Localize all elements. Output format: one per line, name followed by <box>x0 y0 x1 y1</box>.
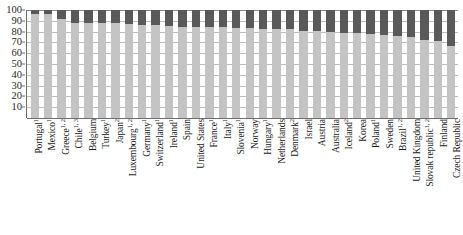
bar-column <box>189 10 202 118</box>
bar-segment-lower <box>151 25 159 118</box>
x-label-cell: Sweden <box>378 119 392 235</box>
x-label-cell: Brazil1, 2 <box>392 119 406 235</box>
bar-segment-lower <box>232 28 240 118</box>
y-tick-mark <box>22 85 25 86</box>
bar-segment-lower <box>380 35 388 118</box>
bar-stack <box>246 10 254 118</box>
bar-segment-upper <box>151 10 159 25</box>
y-tick-mark <box>22 31 25 32</box>
x-label-footnote: 1 <box>221 119 228 122</box>
x-label-cell: United States <box>189 119 203 235</box>
bar-column <box>351 10 364 118</box>
bar-segment-upper <box>326 10 334 32</box>
bar-segment-upper <box>353 10 361 33</box>
bar-segment-upper <box>340 10 348 33</box>
bar-segment-lower <box>313 31 321 118</box>
bar-column <box>404 10 417 118</box>
x-label-cell: Chile1, 3 <box>68 119 82 235</box>
bar-stack <box>299 10 307 118</box>
bar-segment-upper <box>138 10 146 25</box>
bar-segment-lower <box>31 14 39 118</box>
x-label-footnote: 1 <box>261 119 268 122</box>
x-label-cell: Portugal1 <box>27 119 41 235</box>
bar-column <box>337 10 350 118</box>
bar-segment-lower <box>407 37 415 118</box>
bar-segment-upper <box>125 10 133 24</box>
bar-stack <box>366 10 374 118</box>
x-label-cell: Netherlands <box>270 119 284 235</box>
bar-column <box>391 10 404 118</box>
bar-column <box>176 10 189 118</box>
x-label-cell: Iceland2 <box>338 119 352 235</box>
y-tick-mark <box>22 107 25 108</box>
x-label-cell: Mexico1 <box>41 119 55 235</box>
bar-stack <box>286 10 294 118</box>
bar-stack <box>84 10 92 118</box>
y-tick-mark <box>22 53 25 54</box>
bar-segment-lower <box>420 40 428 118</box>
bar-segment-lower <box>111 23 119 118</box>
bar-column <box>41 10 54 118</box>
bar-column <box>162 10 175 118</box>
bar-column <box>28 10 41 118</box>
x-label-footnote: 1, 2 <box>59 119 66 128</box>
bar-segment-upper <box>165 10 173 26</box>
x-label-cell: Norway <box>243 119 257 235</box>
x-label-cell: Slovenia1 <box>230 119 244 235</box>
bar-segment-upper <box>192 10 200 27</box>
bar-segment-upper <box>407 10 415 37</box>
y-tick-mark <box>22 96 25 97</box>
x-label-cell: France1 <box>203 119 217 235</box>
y-tick-mark <box>22 20 25 21</box>
bar-column <box>431 10 444 118</box>
x-label-footnote: 1 <box>99 119 106 122</box>
bar-segment-lower <box>57 19 65 118</box>
x-label-footnote: 2 <box>113 119 120 122</box>
x-label-cell: Greece1, 2 <box>54 119 68 235</box>
bar-stack <box>138 10 146 118</box>
x-label-cell: Hungary1 <box>257 119 271 235</box>
bar-segment-upper <box>98 10 106 23</box>
bar-column <box>149 10 162 118</box>
bar-stack <box>219 10 227 118</box>
bar-column <box>377 10 390 118</box>
x-label-footnote: 1, 2 <box>126 119 133 128</box>
bar-column <box>216 10 229 118</box>
bar-stack <box>125 10 133 118</box>
bar-segment-lower <box>71 23 79 118</box>
x-label-cell: Ireland1 <box>162 119 176 235</box>
bar-segment-lower <box>259 29 267 118</box>
bar-segment-lower <box>286 29 294 118</box>
bar-segment-lower <box>353 33 361 118</box>
bar-column <box>297 10 310 118</box>
bar-segment-upper <box>286 10 294 29</box>
bar-segment-lower <box>192 27 200 118</box>
bar-segment-lower <box>246 28 254 118</box>
x-label-cell: Slovak republic1, 2 <box>419 119 433 235</box>
x-label-footnote: 1, 2 <box>396 119 403 128</box>
bar-stack <box>232 10 240 118</box>
bar-segment-upper <box>299 10 307 31</box>
bar-segment-lower <box>299 31 307 118</box>
bar-column <box>95 10 108 118</box>
x-label-footnote: 2 <box>288 119 295 122</box>
bar-stack <box>272 10 280 118</box>
x-label-cell: Austria <box>311 119 325 235</box>
bar-segment-upper <box>71 10 79 23</box>
plot-area-wrapper: 100908070605040302010 <box>26 10 458 118</box>
bar-column <box>283 10 296 118</box>
y-tick-mark <box>22 64 25 65</box>
x-label-cell: Denmark2 <box>284 119 298 235</box>
bar-column <box>55 10 68 118</box>
x-label-cell: Czech Republic <box>446 119 460 235</box>
bar-stack <box>192 10 200 118</box>
bar-segment-lower <box>84 23 92 118</box>
bar-segment-lower <box>44 14 52 118</box>
x-label-cell: Belgium <box>81 119 95 235</box>
bar-stack <box>111 10 119 118</box>
bar-segment-upper <box>380 10 388 35</box>
x-label-cell: Luxembourg1, 2 <box>122 119 136 235</box>
bar-segment-upper <box>393 10 401 36</box>
x-label-footnote: 1 <box>234 119 241 122</box>
